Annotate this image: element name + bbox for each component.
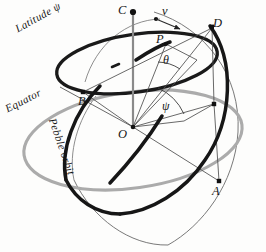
interior-tick-mark <box>112 64 119 67</box>
point-label-A: A <box>212 185 220 198</box>
angle-label-psi: ψ <box>162 100 169 112</box>
dot-A <box>217 179 221 183</box>
point-label-B: B <box>78 95 86 108</box>
point-label-P: P <box>156 33 164 46</box>
point-label-O: O <box>118 128 127 141</box>
point-label-D: D <box>213 17 222 30</box>
vector-label-v: v <box>162 5 168 18</box>
figure-canvas: C v D P B O A θ ψ Latitude ψ Equator Peb… <box>0 0 266 252</box>
angle-label-theta: θ <box>163 54 169 66</box>
dot-P <box>164 42 168 46</box>
velocity-vector <box>154 17 180 29</box>
dot-O <box>131 125 136 130</box>
dot-equator-right <box>212 102 216 106</box>
latitude-circle <box>53 23 221 103</box>
point-label-C: C <box>118 4 126 17</box>
sphere-diagram-svg <box>0 0 266 252</box>
